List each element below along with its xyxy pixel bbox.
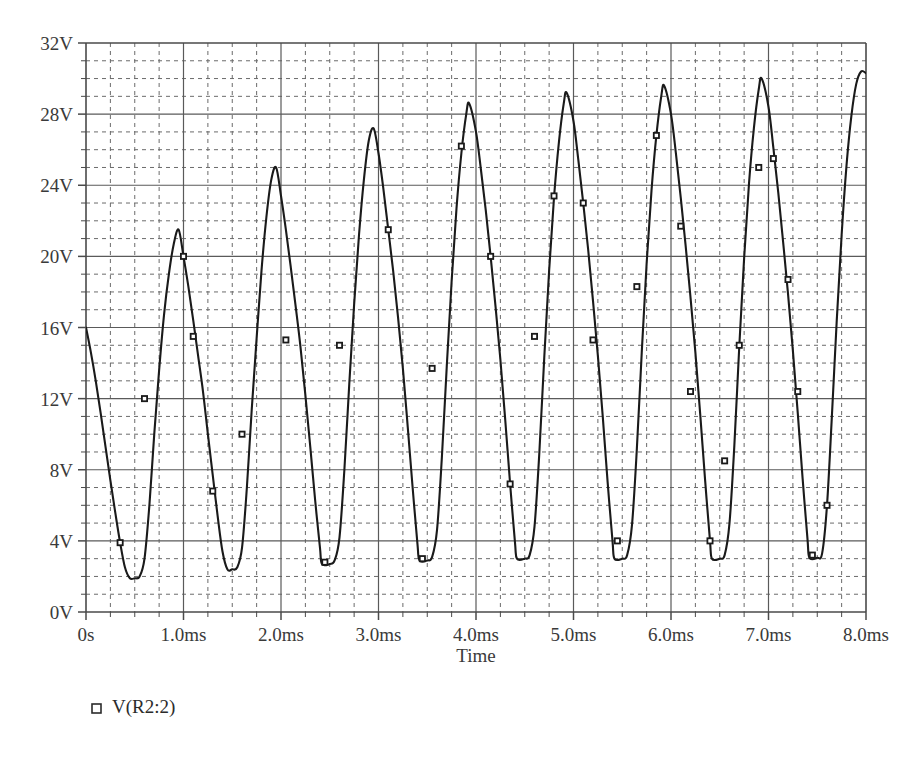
data-point-marker (337, 343, 342, 348)
data-point-marker (785, 277, 790, 282)
data-point-marker (581, 200, 586, 205)
y-tick-label: 0V (50, 602, 74, 623)
data-point-marker (707, 538, 712, 543)
data-point-marker (142, 396, 147, 401)
y-tick-label: 28V (40, 104, 73, 125)
y-tick-label: 12V (40, 389, 73, 410)
x-axis-tick-labels: 0s1.0ms2.0ms3.0ms4.0ms5.0ms6.0ms7.0ms8.0… (78, 624, 889, 645)
data-point-marker (737, 343, 742, 348)
data-point-marker (771, 156, 776, 161)
x-tick-label: 8.0ms (843, 624, 889, 645)
data-point-marker (756, 165, 761, 170)
y-tick-label: 24V (40, 175, 73, 196)
data-point-marker (191, 334, 196, 339)
data-point-marker (810, 553, 815, 558)
y-tick-label: 4V (50, 531, 74, 552)
data-point-marker (551, 193, 556, 198)
x-tick-label: 5.0ms (551, 624, 597, 645)
y-tick-label: 16V (40, 318, 73, 339)
data-point-marker (722, 458, 727, 463)
data-point-marker (590, 337, 595, 342)
x-axis-title: Time (456, 645, 495, 666)
x-tick-label: 7.0ms (746, 624, 792, 645)
x-tick-label: 6.0ms (648, 624, 694, 645)
legend-entry-label: V(R2:2) (112, 696, 175, 718)
x-tick-label: 4.0ms (453, 624, 499, 645)
data-point-marker (508, 481, 513, 486)
x-tick-label: 1.0ms (161, 624, 207, 645)
y-tick-label: 8V (50, 460, 74, 481)
data-point-marker (795, 389, 800, 394)
data-point-marker (118, 540, 123, 545)
data-point-marker (386, 227, 391, 232)
data-point-marker (634, 284, 639, 289)
data-point-marker (430, 366, 435, 371)
x-tick-label: 2.0ms (258, 624, 304, 645)
x-tick-label: 0s (78, 624, 95, 645)
data-point-marker (283, 337, 288, 342)
data-point-marker (459, 144, 464, 149)
data-point-marker (688, 389, 693, 394)
chart-svg: 0s1.0ms2.0ms3.0ms4.0ms5.0ms6.0ms7.0ms8.0… (0, 0, 922, 765)
data-point-marker (488, 254, 493, 259)
y-tick-label: 32V (40, 33, 73, 54)
data-point-marker (532, 334, 537, 339)
data-point-marker (654, 133, 659, 138)
data-point-marker (181, 254, 186, 259)
data-point-marker (322, 560, 327, 565)
y-tick-label: 20V (40, 246, 73, 267)
data-point-marker (615, 538, 620, 543)
x-tick-label: 3.0ms (356, 624, 402, 645)
data-point-marker (420, 556, 425, 561)
data-point-marker (678, 224, 683, 229)
data-point-marker (239, 432, 244, 437)
data-point-marker (210, 488, 215, 493)
chart-figure: 0s1.0ms2.0ms3.0ms4.0ms5.0ms6.0ms7.0ms8.0… (0, 0, 922, 765)
data-point-marker (824, 503, 829, 508)
